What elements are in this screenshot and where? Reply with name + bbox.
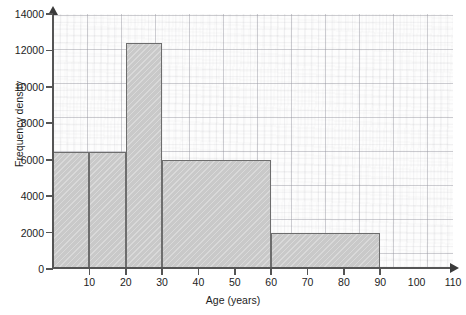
y-axis-tick bbox=[46, 268, 53, 270]
x-axis-tick bbox=[198, 268, 200, 275]
plot-area bbox=[53, 14, 453, 269]
y-axis-tick bbox=[46, 195, 53, 197]
y-axis-tick bbox=[46, 232, 53, 234]
y-axis-tick bbox=[46, 86, 53, 88]
y-axis-tick bbox=[46, 122, 53, 124]
x-axis-tick bbox=[270, 268, 272, 275]
x-axis-title: Age (years) bbox=[0, 294, 466, 306]
x-axis-tick-label: 40 bbox=[183, 277, 213, 288]
x-axis-tick-label: 100 bbox=[402, 277, 432, 288]
histogram-bar bbox=[162, 160, 271, 269]
x-axis-tick-label: 90 bbox=[365, 277, 395, 288]
histogram-bar bbox=[89, 152, 125, 269]
x-axis-tick-label: 70 bbox=[293, 277, 323, 288]
histogram-chart: 02000400060008000100001200014000 1020304… bbox=[0, 0, 466, 315]
y-axis-tick-label: 0 bbox=[0, 264, 44, 275]
y-axis-tick bbox=[46, 50, 53, 52]
x-axis-tick-label: 20 bbox=[111, 277, 141, 288]
y-axis-tick bbox=[46, 13, 53, 15]
x-axis-tick-label: 30 bbox=[147, 277, 177, 288]
x-axis-arrow-icon bbox=[450, 263, 459, 273]
x-axis-tick bbox=[125, 268, 127, 275]
x-axis-tick bbox=[379, 268, 381, 275]
x-axis-line bbox=[53, 267, 453, 269]
x-axis-tick-label: 80 bbox=[329, 277, 359, 288]
x-axis-tick-label: 110 bbox=[438, 277, 466, 288]
x-axis-tick-label: 60 bbox=[256, 277, 286, 288]
histogram-bar bbox=[53, 152, 89, 269]
y-axis-line bbox=[52, 14, 54, 269]
y-axis-tick bbox=[46, 159, 53, 161]
x-axis-tick-label: 10 bbox=[74, 277, 104, 288]
x-axis-tick bbox=[89, 268, 91, 275]
x-axis-tick bbox=[343, 268, 345, 275]
x-axis-tick bbox=[307, 268, 309, 275]
y-axis-tick-label: 2000 bbox=[0, 228, 44, 239]
y-axis-tick-label: 14000 bbox=[0, 9, 44, 20]
histogram-bar bbox=[126, 43, 162, 269]
y-axis-title: Frequency density bbox=[13, 44, 25, 204]
histogram-bar bbox=[271, 233, 380, 269]
x-axis-tick bbox=[234, 268, 236, 275]
x-axis-tick bbox=[161, 268, 163, 275]
x-axis-tick-label: 50 bbox=[220, 277, 250, 288]
